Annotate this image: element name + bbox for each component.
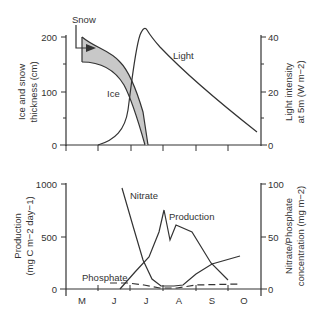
- light-curve: [98, 28, 257, 145]
- light-label: Light: [173, 50, 194, 61]
- bottom-right-tick-100: 100: [268, 179, 284, 190]
- month-label-aug: A: [176, 295, 183, 306]
- top-right-tick-0: 0: [268, 140, 273, 151]
- top-left-axis-label-1: Ice and snow: [16, 64, 27, 120]
- month-label-oct: O: [240, 295, 247, 306]
- month-label-may: M: [78, 295, 86, 306]
- top-left-tick-100: 100: [41, 87, 57, 98]
- top-left-tick-0: 0: [52, 140, 57, 151]
- snow-label: Snow: [72, 14, 96, 25]
- bottom-left-axis-label-1: Production: [12, 213, 23, 258]
- month-label-jun: J: [112, 295, 117, 306]
- ice-label: Ice: [107, 88, 120, 99]
- bottom-left-axis-label-2: (mg C m−2 day−1): [24, 196, 35, 275]
- bottom-left-tick-500: 500: [41, 232, 57, 243]
- bottom-right-axis-label-1: Nitrate/Phosphate: [283, 198, 294, 274]
- bottom-left-tick-0: 0: [52, 284, 57, 295]
- bottom-right-tick-50: 50: [268, 232, 279, 243]
- month-label-jul: J: [144, 295, 149, 306]
- bottom-right-axis-label-2: concentration (mg m−2): [295, 186, 306, 287]
- nitrate-line: [122, 188, 240, 286]
- figure: 200 100 0 40 20 0 Ice and snow thickness…: [0, 0, 321, 316]
- top-right-tick-40: 40: [268, 32, 279, 43]
- top-right-axis-label-1: Light intensity: [283, 63, 294, 121]
- top-right-axis-label-2: at 5m (W m−2): [295, 60, 306, 123]
- top-left-tick-200: 200: [41, 32, 57, 43]
- bottom-right-tick-0: 0: [268, 284, 273, 295]
- phosphate-label: Phosphate: [82, 272, 127, 283]
- top-panel: 200 100 0 40 20 0 Ice and snow thickness…: [16, 14, 306, 151]
- bottom-panel: 1000 500 0 100 50 0 M J J A S O Producti…: [12, 179, 306, 306]
- bottom-left-tick-1000: 1000: [36, 179, 57, 190]
- nitrate-label: Nitrate: [130, 190, 158, 201]
- top-left-axis-label-2: thickness (cm): [28, 61, 39, 122]
- month-label-sep: S: [209, 295, 215, 306]
- top-right-tick-20: 20: [268, 87, 279, 98]
- production-label: Production: [169, 211, 214, 222]
